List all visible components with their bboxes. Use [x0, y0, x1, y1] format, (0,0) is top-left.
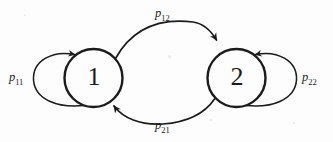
node-label-state-1: 1 — [79, 64, 109, 90]
diagram-canvas: 1 2 p11 p12 p21 p22 — [0, 0, 333, 142]
edge-label-subscript: 22 — [308, 77, 316, 87]
edge-label-subscript: 12 — [161, 13, 169, 23]
edge-label-transition-2-to-1: p21 — [155, 118, 170, 135]
edge-label-self-loop-2: p22 — [302, 70, 317, 87]
edge-label-self-loop-1: p11 — [9, 70, 23, 87]
edge-label-transition-1-to-2: p12 — [155, 6, 170, 23]
edge-path-transition-1-to-2 — [116, 21, 217, 58]
edge-label-subscript: 11 — [15, 77, 23, 87]
edge-label-subscript: 21 — [161, 125, 169, 135]
node-label-state-2: 2 — [222, 64, 252, 90]
